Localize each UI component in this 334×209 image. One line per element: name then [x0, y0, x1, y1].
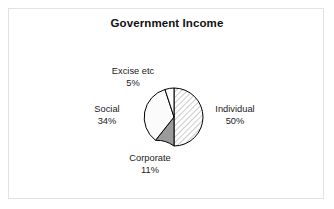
- pie-label-social-name: Social: [78, 104, 136, 116]
- pie-chart: [0, 0, 334, 209]
- pie-slice-individual[interactable]: [174, 88, 203, 146]
- pie-label-corporate-name: Corporate: [108, 153, 192, 165]
- pie-label-individual-value: 50%: [205, 116, 265, 128]
- pie-label-individual: Individual 50%: [205, 104, 265, 127]
- chart-figure: Government Income Individual 50% Corpora…: [0, 0, 334, 209]
- pie-label-social-value: 34%: [78, 116, 136, 128]
- pie-label-individual-name: Individual: [205, 104, 265, 116]
- pie-label-excise-etc: Excise etc 5%: [96, 66, 170, 89]
- pie-label-corporate: Corporate 11%: [108, 153, 192, 176]
- pie-label-excise-etc-name: Excise etc: [96, 66, 170, 78]
- pie-label-corporate-value: 11%: [108, 165, 192, 177]
- pie-label-social: Social 34%: [78, 104, 136, 127]
- pie-label-excise-etc-value: 5%: [96, 78, 170, 90]
